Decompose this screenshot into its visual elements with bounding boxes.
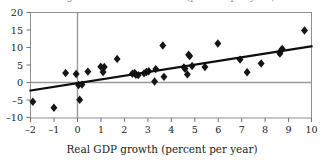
data-point [151,77,158,85]
y-tick-label-20: 20 [11,7,23,18]
x-tick-label-1: 1 [98,124,104,135]
x-tick-label-10: 10 [305,124,317,135]
plot-area: 20 15 10 5 0 –5 –10 [0,0,323,161]
trend-line [31,46,312,90]
data-point [84,67,91,75]
y-axis: 20 15 10 5 0 –5 –10 [6,7,31,123]
x-tick-label-7: 7 [239,124,245,135]
x-tick-label-8: 8 [262,124,268,135]
data-point [159,41,166,49]
data-point [73,70,80,78]
x-tick-label-9: 9 [286,124,292,135]
x-tick-label-neg1: –1 [49,124,60,135]
x-tick-label-5: 5 [192,124,198,135]
y-tick-label-5: 5 [17,60,23,71]
x-tick-label-4: 4 [168,124,174,135]
data-point [114,55,121,63]
zero-reference-lines [31,13,312,119]
data-point [50,104,57,112]
data-point [214,39,221,47]
y-tick-label-15: 15 [11,25,23,36]
data-point [258,59,265,67]
x-tick-label-0: 0 [74,124,80,135]
y-tick-label-0: 0 [17,77,23,88]
data-point [244,68,251,76]
x-tick-label-2: 2 [121,124,127,135]
x-tick-label-6: 6 [215,124,221,135]
y-tick-label-neg5: –5 [12,95,23,106]
plot-frame [31,13,312,119]
data-point [161,73,168,81]
x-axis-title: Real GDP growth (percent per year) [67,143,258,155]
x-tick-label-3: 3 [145,124,151,135]
y-tick-label-neg10: –10 [6,112,23,123]
y-tick-label-10: 10 [11,42,23,53]
x-axis: –2 –1 0 1 2 3 4 5 6 7 8 9 10 [25,118,318,135]
x-tick-label-neg2: –2 [25,124,36,135]
scatter-plot-svg: 20 15 10 5 0 –5 –10 [0,0,323,161]
data-point [301,26,308,34]
chart-figure: the growth rate of real GDP (percent per… [0,0,323,161]
data-point [62,69,69,77]
